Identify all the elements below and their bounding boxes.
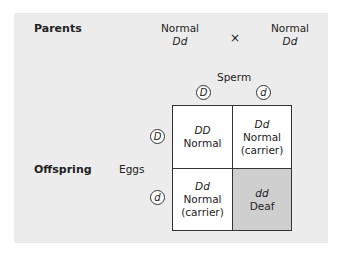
cell-phenotype: Normal	[184, 137, 222, 150]
cell-note: (carrier)	[241, 144, 284, 157]
cell-note: (carrier)	[181, 206, 224, 219]
cell-Dd-top: Dd Normal (carrier)	[232, 106, 291, 168]
cell-phenotype: Deaf	[250, 200, 275, 213]
parent-1: Normal Dd	[158, 22, 202, 48]
sperm-label: Sperm	[217, 71, 251, 83]
cell-phenotype: Normal	[243, 131, 281, 144]
sperm-allele-d: d	[256, 85, 271, 100]
cell-dd: dd Deaf	[232, 168, 291, 230]
offspring-label: Offspring	[34, 163, 92, 176]
parent-2-phenotype: Normal	[268, 22, 312, 35]
punnett-grid: DD Normal Dd Normal (carrier) Dd Normal …	[172, 105, 292, 231]
cell-genotype: dd	[255, 187, 268, 200]
parent-2-genotype: Dd	[268, 35, 312, 48]
eggs-label: Eggs	[119, 163, 144, 175]
cell-genotype: DD	[194, 124, 210, 137]
egg-allele-d: d	[150, 190, 165, 205]
cell-Dd-bottom: Dd Normal (carrier)	[173, 168, 232, 230]
parent-1-genotype: Dd	[158, 35, 202, 48]
cross-symbol: ×	[230, 31, 240, 45]
sperm-allele-D: D	[196, 85, 211, 100]
cell-DD: DD Normal	[173, 106, 232, 168]
cell-genotype: Dd	[195, 180, 210, 193]
cell-phenotype: Normal	[184, 193, 222, 206]
parent-2: Normal Dd	[268, 22, 312, 48]
cell-genotype: Dd	[255, 118, 270, 131]
parents-label: Parents	[34, 22, 82, 35]
parent-1-phenotype: Normal	[158, 22, 202, 35]
egg-allele-D: D	[150, 129, 165, 144]
